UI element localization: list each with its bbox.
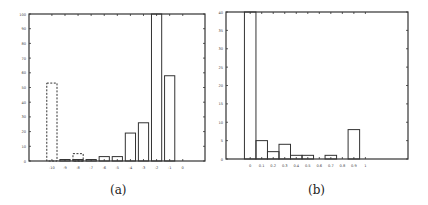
x-tick-label: 1	[364, 164, 366, 168]
x-tick-label: 0.3	[282, 164, 288, 168]
x-tick-label: 0.1	[259, 164, 265, 168]
x-tick-label: 0.6	[316, 164, 322, 168]
y-tick-label: 40	[218, 11, 223, 15]
histogram-bar	[279, 144, 291, 159]
y-tick-label: 10	[218, 121, 223, 125]
chart-panel-b: 051015202530354000.10.20.30.40.50.60.70.…	[0, 0, 428, 205]
x-tick-label: 0	[249, 164, 252, 168]
x-tick-label: 0.2	[270, 164, 276, 168]
histogram-b: 051015202530354000.10.20.30.40.50.60.70.…	[0, 0, 428, 205]
y-tick-label: 20	[218, 84, 223, 88]
x-tick-label: 0.4	[293, 164, 299, 168]
axes-frame	[226, 12, 408, 159]
x-tick-label: 0.7	[328, 164, 334, 168]
x-tick-label: 0.8	[339, 164, 345, 168]
x-tick-label: 0.9	[351, 164, 357, 168]
caption-b: (b)	[308, 183, 325, 197]
y-tick-label: 35	[218, 29, 223, 33]
y-tick-label: 30	[218, 47, 223, 51]
y-tick-label: 5	[221, 139, 223, 143]
x-tick-label: 0.5	[305, 164, 311, 168]
y-tick-label: 25	[218, 66, 223, 70]
y-tick-label: 0	[221, 158, 224, 162]
histogram-bar	[256, 141, 268, 159]
y-tick-label: 15	[218, 102, 223, 106]
histogram-bar	[348, 130, 360, 159]
histogram-bar	[244, 12, 256, 159]
